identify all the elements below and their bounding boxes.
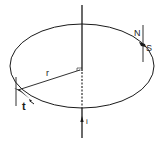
right-angle-dot <box>80 70 81 71</box>
tangent-label: t <box>22 100 26 112</box>
north-label: N <box>134 28 141 38</box>
current-label: i <box>86 117 88 126</box>
south-label: S <box>146 43 152 53</box>
diagram-canvas: r t N S i <box>0 0 163 144</box>
radius-label: r <box>46 68 49 78</box>
radius-line <box>18 70 80 90</box>
current-arrow-icon <box>80 116 83 122</box>
